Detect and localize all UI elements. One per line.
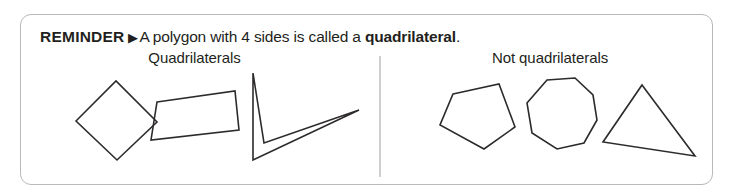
examples-body: Quadrilaterals xyxy=(21,49,714,186)
reminder-sentence-after: . xyxy=(456,28,460,45)
column-title-quadrilaterals: Quadrilaterals xyxy=(15,49,374,66)
reminder-term: quadrilateral xyxy=(365,28,456,45)
triangle-right-icon: ▶ xyxy=(125,30,140,45)
shape-pentagon xyxy=(426,73,526,173)
pentagon-outline xyxy=(440,84,515,149)
shape-row-not-quadrilaterals xyxy=(382,73,714,186)
pentagon-icon xyxy=(426,73,526,173)
dart-outline xyxy=(253,73,359,160)
dart-icon xyxy=(217,73,369,173)
shape-row-quadrilaterals xyxy=(21,73,380,186)
column-title-not-quadrilaterals: Not quadrilaterals xyxy=(384,49,716,66)
triangle-outline xyxy=(603,85,695,156)
shape-octagon xyxy=(518,73,608,173)
column-quadrilaterals: Quadrilaterals xyxy=(21,49,380,186)
reminder-kicker: REMINDER xyxy=(40,28,125,45)
shape-triangle xyxy=(602,73,702,173)
column-not-quadrilaterals: Not quadrilaterals xyxy=(382,49,714,186)
reminder-sentence-before: A polygon with 4 sides is called a xyxy=(139,28,365,45)
triangle-icon xyxy=(602,73,702,173)
reminder-panel: REMINDER▶A polygon with 4 sides is calle… xyxy=(20,14,713,185)
octagon-outline xyxy=(527,78,597,149)
reminder-header: REMINDER▶A polygon with 4 sides is calle… xyxy=(40,28,460,46)
shape-dart xyxy=(217,73,369,173)
octagon-icon xyxy=(518,73,608,173)
